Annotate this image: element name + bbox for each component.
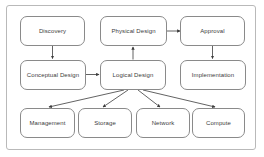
node-management-label: Management <box>29 120 65 127</box>
node-implementation-label: Implementation <box>192 72 234 79</box>
node-implementation[interactable]: Implementation <box>180 60 246 90</box>
node-management[interactable]: Management <box>20 108 75 138</box>
node-storage[interactable]: Storage <box>78 108 132 138</box>
node-network[interactable]: Network <box>136 108 190 138</box>
node-physical-design-label: Physical Design <box>111 28 155 35</box>
node-logical-design[interactable]: Logical Design <box>100 60 166 90</box>
node-compute-label: Compute <box>206 120 231 127</box>
node-approval-label: Approval <box>200 28 224 35</box>
node-discovery[interactable]: Discovery <box>20 16 85 46</box>
node-storage-label: Storage <box>94 120 116 127</box>
node-conceptual-design-label: Conceptual Design <box>27 72 79 79</box>
node-discovery-label: Discovery <box>39 28 66 35</box>
node-compute[interactable]: Compute <box>192 108 245 138</box>
node-physical-design[interactable]: Physical Design <box>100 16 167 46</box>
node-conceptual-design[interactable]: Conceptual Design <box>20 60 86 90</box>
node-logical-design-label: Logical Design <box>113 72 154 79</box>
node-approval[interactable]: Approval <box>180 16 245 46</box>
diagram-canvas: Discovery Physical Design Approval Conce… <box>0 0 264 157</box>
node-network-label: Network <box>152 120 175 127</box>
